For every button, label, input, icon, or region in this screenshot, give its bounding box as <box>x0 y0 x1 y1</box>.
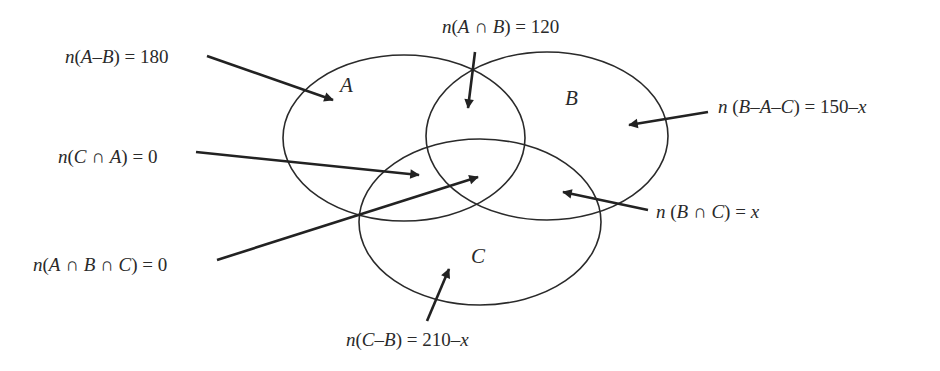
a-minus-b-arrow-icon <box>207 56 333 100</box>
b-minus-a-c-label: n (B–A–C) = 150–x <box>718 96 867 118</box>
c-minus-b-arrow-icon <box>427 269 449 321</box>
b-inter-c-label: n (B ∩ C) = x <box>656 201 760 223</box>
set-b-ellipse <box>426 52 668 220</box>
a-inter-b-inter-c-arrow-icon <box>217 177 478 260</box>
c-inter-a-arrow-icon <box>196 152 419 175</box>
a-minus-b-label: n(A–B) = 180 <box>65 46 169 68</box>
a-inter-b-arrow-icon <box>468 52 475 108</box>
b-minus-a-c-arrow-icon <box>629 112 708 125</box>
annotation-arrows <box>196 52 708 321</box>
a-inter-b-label: n(A ∩ B) = 120 <box>442 16 559 38</box>
set-b-label: B <box>565 86 578 110</box>
c-minus-b-label: n(C–B) = 210–x <box>346 329 469 351</box>
annotation-labels: n(A–B) = 180n(A ∩ B) = 120n (B–A–C) = 15… <box>33 16 867 351</box>
b-inter-c-arrow-icon <box>563 192 648 210</box>
c-inter-a-label: n(C ∩ A) = 0 <box>58 146 157 168</box>
a-inter-b-inter-c-label: n(A ∩ B ∩ C) = 0 <box>33 254 167 276</box>
venn-diagram: ABC n(A–B) = 180n(A ∩ B) = 120n (B–A–C) … <box>0 0 940 371</box>
set-c-ellipse <box>359 139 601 305</box>
set-c-label: C <box>471 244 486 268</box>
set-a-ellipse <box>283 55 525 221</box>
set-a-label: A <box>338 73 353 97</box>
